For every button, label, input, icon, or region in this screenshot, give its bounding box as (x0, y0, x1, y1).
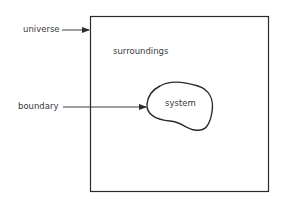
boundary-label: boundary (18, 102, 59, 111)
universe-label: universe (23, 25, 60, 34)
surroundings-label: surroundings (113, 47, 168, 56)
system-label: system (165, 99, 196, 108)
